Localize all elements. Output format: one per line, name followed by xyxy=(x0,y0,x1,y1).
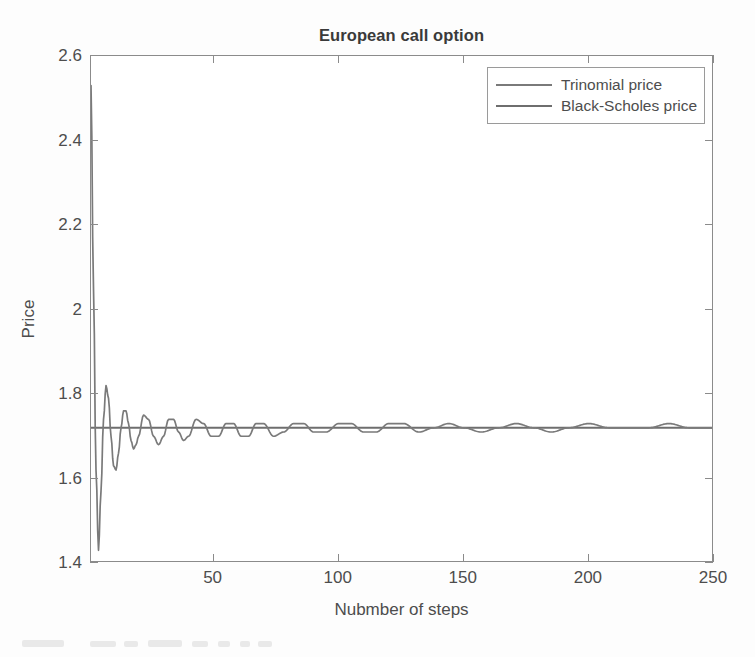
scan-artifact xyxy=(218,641,230,647)
plot-lines-svg xyxy=(91,56,712,561)
x-tick-label: 50 xyxy=(173,569,253,586)
x-tick-label: 200 xyxy=(548,569,628,586)
y-tick-label: 1.6 xyxy=(22,469,82,486)
y-tick-label: 1.8 xyxy=(22,385,82,402)
y-tick-mark xyxy=(90,478,98,479)
y-tick-mark xyxy=(90,55,98,56)
x-tick-mark xyxy=(713,55,714,63)
y-tick-mark xyxy=(705,55,713,56)
plot-area xyxy=(90,55,713,562)
x-tick-label: 100 xyxy=(298,569,378,586)
y-tick-mark xyxy=(705,140,713,141)
chart-title: European call option xyxy=(90,26,713,45)
y-tick-label: 2.2 xyxy=(22,216,82,233)
legend-item-black-scholes: Black-Scholes price xyxy=(496,95,696,116)
scan-artifact xyxy=(240,641,250,647)
x-axis-label: Nubmber of steps xyxy=(90,600,713,620)
scan-artifact xyxy=(148,640,182,647)
trinomial-line xyxy=(91,86,712,551)
plot-inner xyxy=(91,56,712,561)
scan-artifact xyxy=(90,641,116,647)
scan-artifact xyxy=(22,640,64,647)
scan-artifact xyxy=(192,641,208,647)
scan-artifact xyxy=(258,641,272,647)
scan-artifact xyxy=(124,641,138,647)
x-tick-mark xyxy=(588,554,589,562)
y-tick-mark xyxy=(705,309,713,310)
legend-swatch-trinomial xyxy=(496,84,552,86)
x-tick-mark xyxy=(588,55,589,63)
legend-swatch-black-scholes xyxy=(496,105,552,107)
legend-label-black-scholes: Black-Scholes price xyxy=(561,98,697,114)
y-tick-mark xyxy=(705,393,713,394)
y-tick-mark xyxy=(90,140,98,141)
y-tick-mark xyxy=(90,393,98,394)
x-tick-mark xyxy=(213,55,214,63)
y-tick-mark xyxy=(705,478,713,479)
x-tick-mark xyxy=(463,55,464,63)
y-tick-mark xyxy=(90,309,98,310)
y-tick-mark xyxy=(705,224,713,225)
x-tick-mark xyxy=(213,554,214,562)
figure-canvas: European call option 1.41.61.822.22.42.6… xyxy=(0,0,755,657)
y-tick-mark xyxy=(90,224,98,225)
x-tick-mark xyxy=(463,554,464,562)
legend-item-trinomial: Trinomial price xyxy=(496,74,696,95)
y-axis-label: Price xyxy=(19,279,39,359)
y-tick-label: 2.4 xyxy=(22,131,82,148)
x-tick-mark xyxy=(713,554,714,562)
x-tick-label: 250 xyxy=(673,569,753,586)
y-tick-mark xyxy=(705,562,713,563)
x-tick-mark xyxy=(338,554,339,562)
legend-label-trinomial: Trinomial price xyxy=(561,77,662,93)
x-tick-mark xyxy=(338,55,339,63)
x-tick-label: 150 xyxy=(423,569,503,586)
y-tick-label: 1.4 xyxy=(22,554,82,571)
legend-box: Trinomial price Black-Scholes price xyxy=(487,67,705,124)
y-tick-mark xyxy=(90,562,98,563)
y-tick-label: 2.6 xyxy=(22,47,82,64)
